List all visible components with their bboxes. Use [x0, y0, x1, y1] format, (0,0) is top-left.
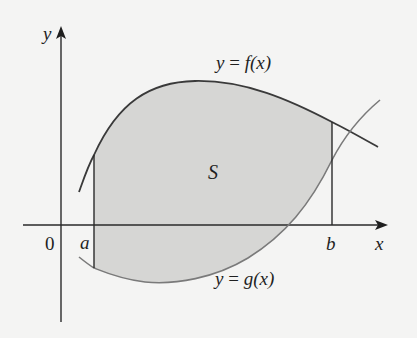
g-curve-label-fn: g	[244, 268, 254, 289]
region-s-label: S	[208, 162, 218, 182]
g-curve-label: y = g(x)	[215, 269, 274, 288]
b-label: b	[326, 234, 336, 253]
x-axis-label: x	[375, 234, 383, 253]
area-between-curves-diagram: y x 0 a b S y = f(x) y = g(x)	[0, 0, 417, 338]
f-curve-label-eq: =	[224, 52, 244, 73]
f-curve-label: y = f(x)	[216, 53, 271, 72]
origin-label: 0	[45, 234, 55, 253]
y-axis-label: y	[43, 24, 51, 43]
a-label: a	[80, 233, 90, 252]
g-curve-label-eq: =	[223, 268, 243, 289]
f-curve-label-arg: (x)	[250, 52, 271, 73]
g-curve-label-arg: (x)	[253, 268, 274, 289]
